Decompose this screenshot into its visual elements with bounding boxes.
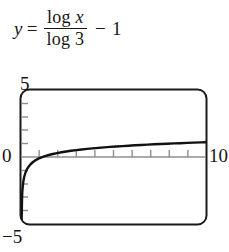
equation-equals-sign: =: [27, 19, 44, 38]
numerator-argument: x: [75, 7, 83, 27]
fraction-numerator: log x: [44, 8, 87, 28]
y-axis-min-label: −5: [2, 227, 22, 246]
numerator-log: log: [47, 7, 71, 27]
plot-svg: [0, 72, 229, 252]
equation-constant: 1: [112, 19, 122, 38]
equation: y = log x log 3 − 1: [14, 8, 122, 50]
x-axis-max-label: 10: [209, 146, 228, 165]
logarithmic-function-figure: y = log x log 3 − 1: [0, 0, 229, 252]
plot-area: 5 0 10 −5: [0, 72, 229, 252]
y-axis-max-label: 5: [20, 74, 30, 93]
equation-minus-operator: −: [87, 19, 112, 38]
denominator-log: log: [47, 29, 71, 49]
equation-fraction: log x log 3: [44, 8, 88, 50]
fraction-denominator: log 3: [44, 29, 88, 49]
y-axis-zero-label: 0: [2, 146, 12, 165]
denominator-argument: 3: [75, 29, 84, 49]
equation-variable: y: [14, 19, 27, 38]
